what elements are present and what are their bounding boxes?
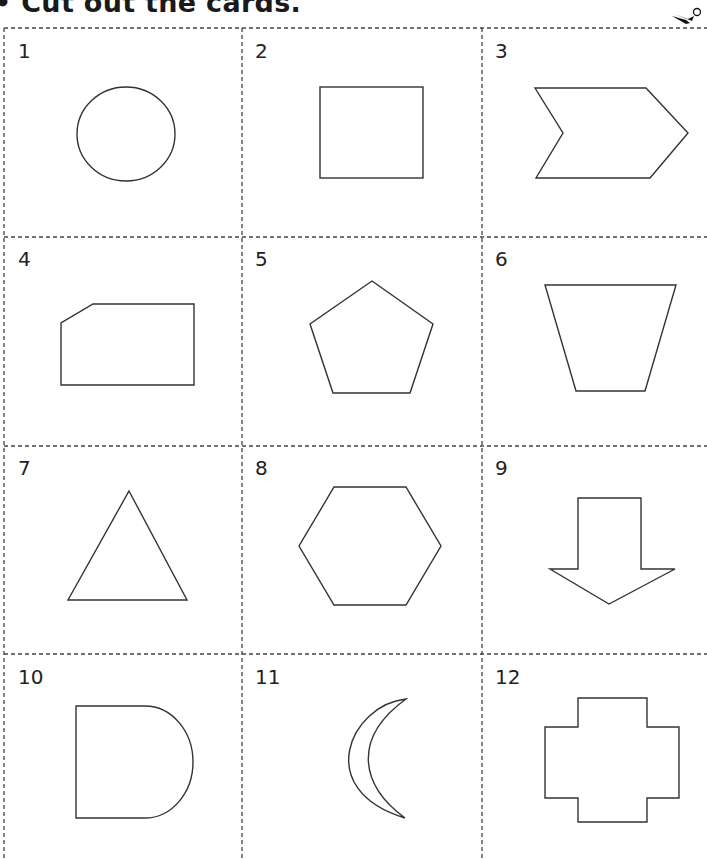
shapes-layer <box>0 0 707 859</box>
shape-circle-card-1[interactable] <box>77 87 175 181</box>
shape-d-card-10[interactable] <box>76 706 193 818</box>
shape-trapezoid-card-6[interactable] <box>545 285 676 391</box>
shape-cross-card-12[interactable] <box>545 698 679 822</box>
shape-down-arrow-card-9[interactable] <box>550 498 675 604</box>
shape-square-card-2[interactable] <box>320 87 423 178</box>
shape-crescent-card-11[interactable] <box>349 699 406 818</box>
shape-cut-rectangle-card-4[interactable] <box>61 304 194 385</box>
shape-chevron-card-3[interactable] <box>535 88 688 178</box>
shape-triangle-card-7[interactable] <box>68 491 187 600</box>
shape-hexagon-card-8[interactable] <box>299 487 441 605</box>
shape-pentagon-card-5[interactable] <box>310 281 433 393</box>
